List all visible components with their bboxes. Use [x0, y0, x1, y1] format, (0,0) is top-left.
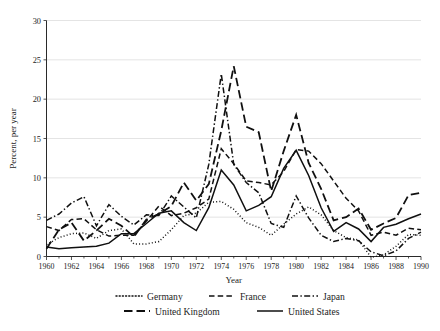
- chart-legend: GermanyFranceJapanUnited KingdomUnited S…: [116, 291, 345, 317]
- x-tick-label-1962: 1962: [64, 262, 80, 271]
- x-tick-label-1970: 1970: [163, 262, 179, 271]
- x-tick-label-1978: 1978: [263, 262, 279, 271]
- series-line-germany: [47, 201, 422, 257]
- x-tick-label-1968: 1968: [138, 262, 154, 271]
- x-axis-title: Year: [225, 275, 242, 285]
- data-series-group: [47, 66, 422, 257]
- x-tick-label-1972: 1972: [188, 262, 204, 271]
- x-tick-label-1966: 1966: [114, 262, 130, 271]
- y-tick-label-0: 0: [37, 253, 41, 262]
- x-tick-label-1964: 1964: [89, 262, 105, 271]
- y-tick-label-30: 30: [33, 17, 41, 26]
- series-line-japan: [47, 74, 422, 256]
- legend-label-france: France: [240, 291, 266, 302]
- y-tick-label-25: 25: [33, 56, 41, 65]
- y-axis-title: Percent, per year: [8, 108, 18, 169]
- inflation-line-chart: 051015202530 196019621964196619681970197…: [0, 0, 440, 331]
- gridlines-group: [47, 21, 422, 218]
- legend-label-united-kingdom: United Kingdom: [155, 306, 220, 317]
- x-tick-label-1974: 1974: [213, 262, 229, 271]
- x-tick-label-1984: 1984: [338, 262, 354, 271]
- y-tick-label-10: 10: [33, 174, 41, 183]
- y-tick-label-20: 20: [33, 95, 41, 104]
- chart-container: 051015202530 196019621964196619681970197…: [0, 0, 440, 331]
- x-axis-ticks-group: [47, 257, 422, 261]
- x-axis-tick-labels: 1960196219641966196819701972197419761978…: [39, 262, 429, 271]
- series-line-united-kingdom: [47, 66, 422, 249]
- legend-label-japan: Japan: [323, 291, 345, 302]
- y-tick-label-15: 15: [33, 135, 41, 144]
- y-axis-tick-labels: 051015202530: [33, 17, 41, 262]
- x-tick-label-1988: 1988: [388, 262, 404, 271]
- x-tick-label-1980: 1980: [288, 262, 304, 271]
- x-tick-label-1986: 1986: [363, 262, 379, 271]
- x-tick-label-1990: 1990: [413, 262, 429, 271]
- legend-label-united-states: United States: [288, 306, 340, 317]
- x-tick-label-1982: 1982: [313, 262, 329, 271]
- legend-label-germany: Germany: [147, 291, 183, 302]
- x-tick-label-1976: 1976: [238, 262, 254, 271]
- x-tick-label-1960: 1960: [39, 262, 55, 271]
- y-tick-label-5: 5: [37, 213, 41, 222]
